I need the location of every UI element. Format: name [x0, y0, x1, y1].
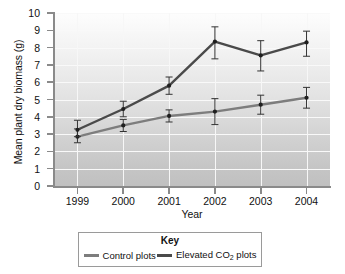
y-axis-tick	[47, 116, 54, 118]
data-point-marker	[304, 96, 308, 100]
plot-area	[54, 13, 330, 186]
data-point-marker	[121, 123, 125, 127]
legend-swatch-elevated-co2-plots	[157, 254, 172, 257]
legend-label-elevated-co2-plots: Elevated CO2 plots	[176, 249, 257, 261]
y-axis-tick-label: 10	[22, 8, 40, 18]
y-axis-tick-label: 8	[22, 43, 40, 53]
legend-item-control-plots: Control plots	[84, 250, 156, 261]
legend-items: Control plots Elevated CO2 plots	[79, 249, 261, 261]
x-axis-title: Year	[54, 208, 330, 220]
y-axis-tick-label: 5	[22, 95, 40, 105]
y-axis-tick-label: 3	[22, 129, 40, 139]
data-point-marker	[304, 40, 308, 44]
legend-key-box: Key Control plots Elevated CO2 plots	[78, 232, 262, 267]
x-axis-tick-label: 1999	[57, 195, 97, 207]
y-axis-tick-label: 2	[22, 146, 40, 156]
y-axis-tick	[47, 185, 54, 187]
y-axis-tick	[47, 168, 54, 170]
y-axis-tick	[47, 151, 54, 153]
x-axis-tick-label: 2001	[149, 195, 189, 207]
data-point-marker	[75, 128, 79, 132]
x-axis-tick	[122, 188, 124, 194]
x-axis-tick	[260, 188, 262, 194]
data-point-marker	[167, 84, 171, 88]
y-axis-tick	[47, 133, 54, 135]
y-axis-tick-label: 1	[22, 164, 40, 174]
legend-label-control-plots: Control plots	[103, 250, 156, 261]
chart-container: Mean plant dry biomass (g) 012345678910 …	[0, 0, 345, 222]
x-axis-line	[53, 186, 331, 188]
x-axis-tick-label: 2002	[195, 195, 235, 207]
data-point-marker	[213, 110, 217, 114]
data-point-marker	[259, 53, 263, 57]
x-axis-tick-label: 2000	[103, 195, 143, 207]
series-elevated-co2-plots	[74, 27, 310, 137]
y-axis-tick-label: 4	[22, 112, 40, 122]
x-axis-tick-label: 2003	[241, 195, 281, 207]
y-axis-tick	[47, 12, 54, 14]
y-axis-tick	[47, 30, 54, 32]
y-axis-tick	[47, 99, 54, 101]
y-axis-tick-label: 7	[22, 60, 40, 70]
data-point-marker	[213, 39, 217, 43]
x-axis-tick-label: 2004	[287, 195, 327, 207]
legend-swatch-control-plots	[84, 254, 99, 257]
data-point-marker	[259, 103, 263, 107]
series-line	[77, 42, 306, 130]
y-axis-tick	[47, 47, 54, 49]
y-axis-tick-label: 9	[22, 25, 40, 35]
data-point-marker	[167, 114, 171, 118]
x-axis-tick	[168, 188, 170, 194]
y-axis-tick-label: 0	[22, 181, 40, 191]
legend-item-elevated-co2-plots: Elevated CO2 plots	[157, 249, 257, 261]
x-axis-tick	[306, 188, 308, 194]
y-axis-tick	[47, 81, 54, 83]
y-axis-tick-label: 6	[22, 77, 40, 87]
chart-data-layer	[54, 13, 330, 186]
x-axis-tick	[214, 188, 216, 194]
data-point-marker	[121, 107, 125, 111]
x-axis-tick	[77, 188, 79, 194]
series-line	[77, 98, 306, 137]
legend-title: Key	[79, 235, 261, 246]
y-axis-tick	[47, 64, 54, 66]
